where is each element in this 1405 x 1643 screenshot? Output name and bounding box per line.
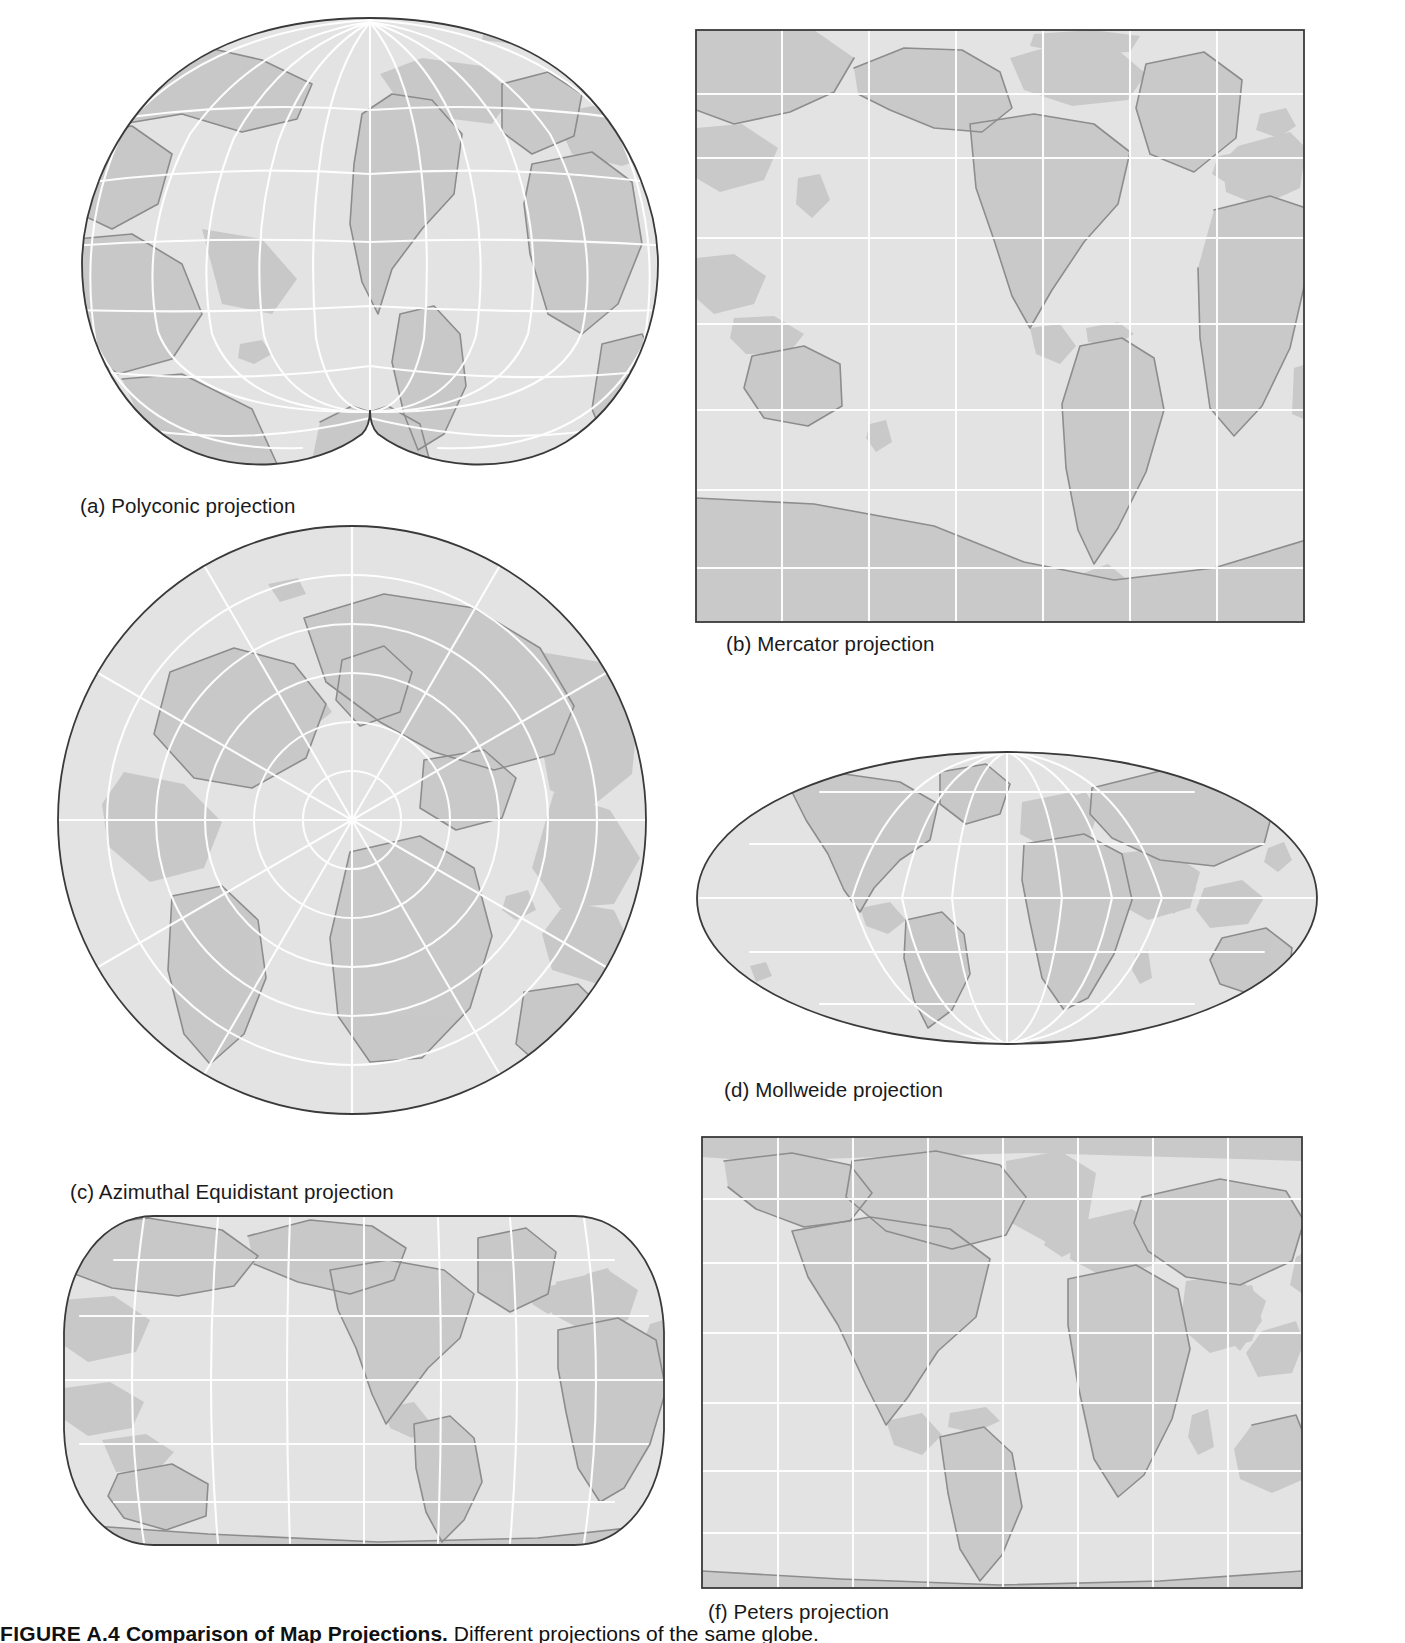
caption-polyconic: (a) Polyconic projection	[80, 494, 295, 518]
azimuthal-map-body	[56, 524, 648, 1116]
mollweide-projection-map	[694, 748, 1320, 1048]
robinson-map-body	[58, 1212, 670, 1549]
figure-title: Comparison of Map Projections.	[126, 1622, 448, 1643]
panel-robinson: (e) Robinson projection	[58, 1212, 670, 1549]
robinson-projection-map	[58, 1212, 670, 1549]
panel-mercator: (b) Mercator projection	[694, 28, 1306, 624]
panel-polyconic: (a) Polyconic projection	[62, 14, 678, 472]
polyconic-projection-map	[62, 14, 678, 472]
caption-peters: (f) Peters projection	[708, 1600, 889, 1624]
figure-description: Different projections of the same globe.	[448, 1622, 819, 1643]
caption-azimuthal-equidistant: (c) Azimuthal Equidistant projection	[70, 1180, 394, 1204]
panel-azimuthal-equidistant: (c) Azimuthal Equidistant projection	[54, 522, 650, 1118]
figure-map-projection-comparison: (a) Polyconic projection	[0, 0, 1405, 1643]
peters-projection-map	[700, 1135, 1304, 1590]
panel-peters: (f) Peters projection	[700, 1135, 1304, 1590]
caption-mercator: (b) Mercator projection	[726, 632, 935, 656]
peters-map-body	[700, 1135, 1304, 1590]
figure-caption: FIGURE A.4 Comparison of Map Projections…	[0, 1622, 1405, 1643]
figure-number: FIGURE A.4	[0, 1622, 120, 1643]
azimuthal-equidistant-projection-map	[54, 522, 650, 1118]
mercator-map-body	[694, 28, 1306, 624]
caption-mollweide: (d) Mollweide projection	[724, 1078, 943, 1102]
panel-mollweide: (d) Mollweide projection	[694, 748, 1320, 1048]
polyconic-map-body	[62, 14, 678, 472]
mercator-projection-map	[694, 28, 1306, 624]
